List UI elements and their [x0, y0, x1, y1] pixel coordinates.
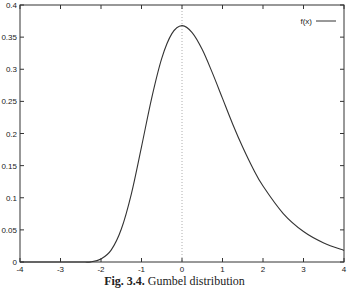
x-tick-label: -1: [138, 265, 146, 274]
legend: f(x): [300, 17, 336, 26]
x-tick-label: 3: [301, 265, 306, 274]
legend-label-fx: f(x): [300, 17, 312, 26]
y-tick-label: 0.15: [1, 162, 17, 171]
y-tick-label: 0.1: [6, 194, 18, 203]
y-tick-label: 0.25: [1, 97, 17, 106]
x-tick-label: -3: [57, 265, 65, 274]
x-tick-label: -2: [97, 265, 105, 274]
plot-frame: [20, 5, 344, 262]
y-tick-label: 0: [13, 258, 18, 267]
x-tick-label: -4: [16, 265, 24, 274]
x-tick-label: 1: [220, 265, 225, 274]
y-tick-label: 0.2: [6, 130, 18, 139]
x-tick-label: 0: [180, 265, 185, 274]
x-tick-label: 2: [261, 265, 266, 274]
x-tick-label: 4: [342, 265, 347, 274]
figure-caption-text: Gumbel distribution: [148, 274, 245, 288]
y-tick-label: 0.3: [6, 65, 18, 74]
y-tick-label: 0.4: [6, 1, 18, 10]
figure-caption: Fig. 3.4. Gumbel distribution: [0, 274, 349, 289]
y-tick-label: 0.35: [1, 33, 17, 42]
y-axis-ticks: 00.050.10.150.20.250.30.350.4: [1, 1, 344, 267]
y-tick-label: 0.05: [1, 226, 17, 235]
figure-number: Fig. 3.4.: [104, 274, 145, 288]
